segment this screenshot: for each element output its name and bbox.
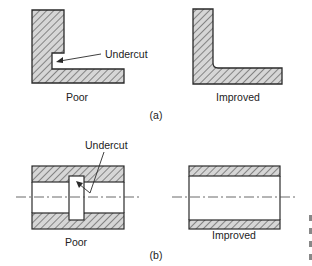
part-b-tag: (b) xyxy=(150,250,163,261)
improved-label-b: Improved xyxy=(212,230,256,241)
caption-fragment xyxy=(309,215,312,260)
undercut-leader-a xyxy=(56,54,101,63)
poor-label-a: Poor xyxy=(66,92,88,103)
improved-label-a: Improved xyxy=(216,92,260,103)
part-a-tag: (a) xyxy=(150,110,163,121)
poor-label-b: Poor xyxy=(65,237,87,248)
undercut-callout-a: Undercut xyxy=(105,49,148,60)
poor-bushing-section xyxy=(16,166,140,229)
undercut-diagram xyxy=(0,0,312,266)
poor-l-section xyxy=(32,10,124,83)
undercut-callout-b: Undercut xyxy=(85,140,128,151)
improved-l-section xyxy=(193,9,282,84)
improved-bushing-section xyxy=(172,166,296,229)
